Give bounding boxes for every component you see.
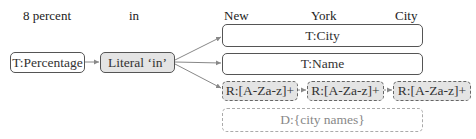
node-regex-3: R:[A-Za-z]+ — [393, 81, 471, 101]
node-dictionary: D:{city names} — [222, 108, 423, 132]
node-t-name: T:Name — [222, 53, 423, 75]
node-literal-in: Literal ‘in’ — [100, 52, 175, 73]
node-t-city: T:City — [222, 24, 423, 47]
node-regex-2: R:[A-Za-z]+ — [307, 81, 384, 101]
node-regex-1: R:[A-Za-z]+ — [222, 81, 298, 101]
node-t-percentage: T:Percentage — [10, 52, 85, 73]
